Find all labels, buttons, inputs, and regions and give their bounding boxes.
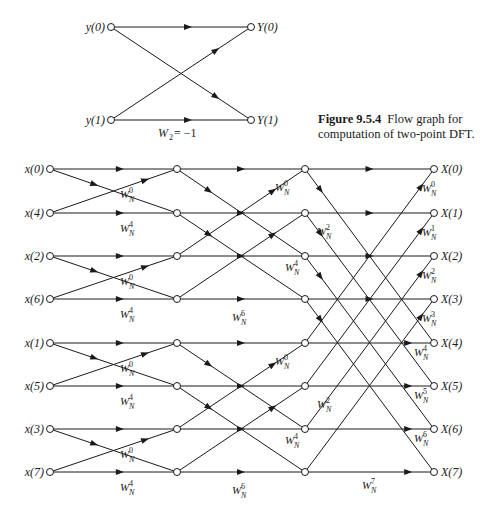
svg-text:0: 0 — [284, 353, 288, 362]
arrowhead-icon — [116, 383, 124, 389]
svg-text:N: N — [430, 189, 437, 198]
svg-text:2: 2 — [431, 267, 435, 276]
arrowhead-icon — [237, 469, 245, 475]
node-circle — [108, 117, 115, 124]
svg-text:N: N — [128, 455, 135, 464]
figure-number: Figure 9.5.4 — [318, 112, 381, 126]
twiddle-factor-label: W7N — [362, 477, 377, 495]
fft-output-label: X(7) — [440, 465, 462, 479]
arrowhead-icon — [204, 403, 214, 412]
node-circle — [431, 296, 438, 303]
arrowhead-icon — [90, 440, 100, 448]
twiddle-factor-label: W4N — [120, 479, 135, 497]
svg-text:0: 0 — [129, 273, 133, 282]
fft-output-label: X(4) — [440, 336, 462, 350]
node-circle — [431, 469, 438, 476]
node-circle — [47, 166, 54, 173]
node-circle — [248, 24, 255, 31]
arrowhead-icon — [116, 426, 124, 432]
svg-text:N: N — [128, 229, 135, 238]
twiddle-factor-label: W4N — [120, 220, 135, 238]
butterfly-twiddle-label: W2 = −1 — [158, 126, 197, 142]
twiddle-factor-label: W5N — [414, 387, 429, 405]
fft-input-label: x(0) — [24, 162, 44, 176]
arrowhead-icon — [116, 253, 124, 259]
twiddle-factor-label: W0N — [120, 186, 135, 204]
fft-output-label: X(6) — [440, 422, 462, 436]
twiddle-factor-label: W4N — [120, 393, 135, 411]
svg-text:4: 4 — [129, 306, 133, 315]
node-circle — [431, 426, 438, 433]
svg-text:N: N — [430, 233, 437, 242]
svg-text:N: N — [240, 491, 247, 500]
butterfly-input-label: y(0) — [85, 20, 105, 34]
butterfly-output-label: Y(1) — [257, 113, 278, 127]
svg-text:= −1: = −1 — [174, 126, 197, 140]
twiddle-factor-label: W6N — [232, 482, 247, 500]
svg-text:4: 4 — [129, 393, 133, 402]
svg-text:1: 1 — [431, 224, 435, 233]
node-circle — [47, 210, 54, 217]
arrowhead-icon — [116, 340, 124, 346]
node-circle — [431, 383, 438, 390]
twiddle-factor-label: W3N — [422, 310, 437, 328]
fft-input-label: x(4) — [24, 206, 44, 220]
node-circle — [47, 426, 54, 433]
svg-text:6: 6 — [241, 309, 245, 318]
arrowhead-icon — [211, 92, 221, 101]
arrowhead-icon — [366, 166, 374, 172]
fft-input-label: x(6) — [24, 292, 44, 306]
arrowhead-icon — [140, 176, 150, 184]
arrowhead-icon — [404, 383, 412, 389]
twiddle-factor-label: W1N — [422, 224, 437, 242]
arrowhead-icon — [237, 340, 245, 346]
twiddle-factor-label: W4N — [285, 259, 300, 277]
arrowhead-icon — [116, 469, 124, 475]
svg-text:0: 0 — [431, 180, 435, 189]
svg-text:N: N — [370, 486, 377, 495]
fft-output-label: X(3) — [440, 292, 462, 306]
arrowhead-icon — [90, 267, 100, 275]
svg-text:N: N — [128, 195, 135, 204]
svg-text:5: 5 — [423, 387, 427, 396]
twiddle-factor-label: W0N — [275, 179, 290, 197]
arrowhead-icon — [140, 436, 150, 444]
twiddle-factor-label: W6N — [232, 309, 247, 327]
node-circle — [302, 253, 309, 260]
svg-text:N: N — [422, 396, 429, 405]
arrowhead-icon — [116, 296, 124, 302]
svg-text:N: N — [422, 353, 429, 362]
svg-text:6: 6 — [423, 430, 427, 439]
svg-text:4: 4 — [294, 432, 298, 441]
node-circle — [302, 296, 309, 303]
twiddle-factor-label: W0N — [120, 273, 135, 291]
svg-text:0: 0 — [129, 446, 133, 455]
twiddle-factor-label: W2N — [422, 267, 437, 285]
svg-text:N: N — [128, 315, 135, 324]
svg-text:N: N — [325, 405, 332, 414]
arrowhead-icon — [204, 230, 214, 239]
arrowhead-icon — [116, 210, 124, 216]
fft-input-label: x(2) — [24, 249, 44, 263]
svg-text:N: N — [128, 282, 135, 291]
butterfly-input-label: y(1) — [85, 113, 105, 127]
svg-text:N: N — [430, 319, 437, 328]
svg-text:N: N — [240, 318, 247, 327]
svg-text:0: 0 — [284, 179, 288, 188]
svg-text:N: N — [128, 369, 135, 378]
svg-text:6: 6 — [241, 482, 245, 491]
node-circle — [302, 383, 309, 390]
figure-caption: Figure 9.5.4Flow graph for computation o… — [318, 112, 483, 142]
arrowhead-icon — [90, 180, 100, 188]
twiddle-factor-label: W4N — [120, 306, 135, 324]
node-circle — [47, 296, 54, 303]
node-circle — [302, 166, 309, 173]
arrowhead-icon — [404, 340, 412, 346]
node-circle — [431, 210, 438, 217]
node-circle — [302, 210, 309, 217]
svg-text:N: N — [422, 439, 429, 448]
fft-input-label: x(7) — [24, 465, 44, 479]
fft-input-label: x(5) — [24, 379, 44, 393]
svg-text:N: N — [325, 232, 332, 241]
fft-output-label: X(5) — [440, 379, 462, 393]
